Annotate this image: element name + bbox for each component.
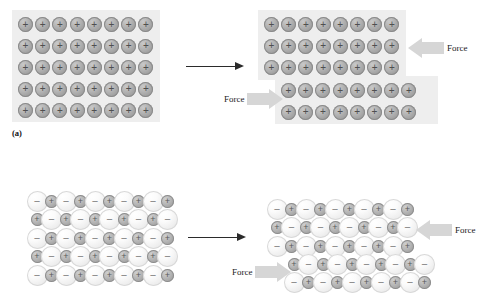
force-arrow-left-icon bbox=[408, 38, 444, 58]
transition-arrow-b bbox=[188, 233, 246, 242]
cation-sphere: + bbox=[104, 103, 119, 118]
plus-icon: + bbox=[161, 195, 174, 208]
plus-icon: + bbox=[367, 17, 382, 32]
plus-icon: + bbox=[333, 105, 348, 120]
plus-icon: + bbox=[401, 203, 414, 216]
arrow-shaft bbox=[188, 237, 237, 238]
lattice-row: ++++++++ bbox=[264, 39, 399, 54]
cation-sphere: + bbox=[35, 39, 50, 54]
cation-sphere: + bbox=[333, 60, 348, 75]
plus-icon: + bbox=[35, 103, 50, 118]
cation-sphere: + bbox=[316, 17, 331, 32]
plus-icon: + bbox=[264, 60, 279, 75]
plus-icon: + bbox=[18, 39, 33, 54]
plus-icon: + bbox=[70, 17, 85, 32]
cation-sphere: + bbox=[70, 17, 85, 32]
lattice-row: ++++++++ bbox=[18, 60, 153, 75]
plus-icon: + bbox=[401, 105, 416, 120]
plus-icon: + bbox=[87, 60, 102, 75]
plus-icon: + bbox=[281, 83, 296, 98]
cation-sphere: + bbox=[70, 82, 85, 97]
force-arrow-a-upper: Force bbox=[408, 38, 468, 58]
arrow-tail bbox=[422, 42, 444, 54]
arrow-head bbox=[235, 62, 244, 70]
plus-icon: + bbox=[401, 240, 414, 253]
cation-sphere: + bbox=[384, 60, 399, 75]
cation-sphere: + bbox=[350, 105, 365, 120]
cation-sphere: + bbox=[316, 60, 331, 75]
cation-sphere: + bbox=[87, 60, 102, 75]
plus-icon: + bbox=[70, 39, 85, 54]
force-arrow-right-icon bbox=[247, 89, 283, 109]
cation-sphere: + bbox=[52, 17, 67, 32]
plus-icon: + bbox=[350, 17, 365, 32]
plus-icon: + bbox=[384, 105, 399, 120]
plus-icon: + bbox=[121, 39, 136, 54]
cation-sphere: + bbox=[104, 39, 119, 54]
force-arrow-a-lower: Force bbox=[224, 89, 283, 109]
plus-icon: + bbox=[316, 39, 331, 54]
cation-sphere: + bbox=[35, 103, 50, 118]
arrow-tip bbox=[416, 220, 430, 240]
cation-sphere: + bbox=[18, 39, 33, 54]
plus-icon: + bbox=[138, 103, 153, 118]
plus-icon: + bbox=[350, 39, 365, 54]
plus-icon: + bbox=[52, 82, 67, 97]
arrow-head bbox=[237, 233, 246, 241]
plus-icon: + bbox=[138, 39, 153, 54]
plus-icon: + bbox=[104, 103, 119, 118]
metallic-lattice-after-upper: ++++++++++++++++++++++++ bbox=[258, 10, 406, 80]
cation-sphere: + bbox=[350, 39, 365, 54]
lattice-row: ++++++++ bbox=[18, 39, 153, 54]
arrow-tip bbox=[269, 89, 283, 109]
plus-icon: + bbox=[384, 17, 399, 32]
ionic-lattice-after-upper: −+−+−+−+−++−+−+−+−+−−+−+−+−+−+ bbox=[266, 198, 416, 256]
lattice-row: ++++++++ bbox=[281, 83, 416, 98]
cation-sphere: + bbox=[138, 17, 153, 32]
metallic-lattice-before: ++++++++++++++++++++++++++++++++++++++++ bbox=[12, 10, 160, 122]
plus-icon: + bbox=[315, 105, 330, 120]
plus-icon: + bbox=[298, 39, 313, 54]
lattice-row: ++++++++ bbox=[18, 17, 153, 32]
cation-sphere: + bbox=[104, 17, 119, 32]
cation-sphere: + bbox=[418, 276, 431, 289]
plus-icon: + bbox=[121, 60, 136, 75]
plus-icon: + bbox=[104, 82, 119, 97]
cation-sphere: + bbox=[104, 60, 119, 75]
cation-sphere: + bbox=[316, 39, 331, 54]
plus-icon: + bbox=[298, 60, 313, 75]
plus-icon: + bbox=[18, 60, 33, 75]
arrow-tail bbox=[255, 266, 277, 278]
lattice-row: ++++++++ bbox=[18, 103, 153, 118]
cation-sphere: + bbox=[52, 82, 67, 97]
plus-icon: + bbox=[281, 17, 296, 32]
plus-icon: + bbox=[367, 83, 382, 98]
cation-sphere: + bbox=[401, 240, 414, 253]
cation-sphere: + bbox=[264, 17, 279, 32]
plus-icon: + bbox=[35, 17, 50, 32]
plus-icon: + bbox=[104, 60, 119, 75]
plus-icon: + bbox=[281, 105, 296, 120]
transition-arrow-a bbox=[186, 62, 244, 71]
cation-sphere: + bbox=[87, 39, 102, 54]
plus-icon: + bbox=[384, 83, 399, 98]
plus-icon: + bbox=[52, 39, 67, 54]
plus-icon: + bbox=[18, 17, 33, 32]
plus-icon: + bbox=[161, 269, 174, 282]
cation-sphere: + bbox=[121, 82, 136, 97]
cation-sphere: + bbox=[264, 60, 279, 75]
plus-icon: + bbox=[138, 17, 153, 32]
plus-icon: + bbox=[35, 82, 50, 97]
plus-icon: + bbox=[18, 103, 33, 118]
cation-sphere: + bbox=[281, 60, 296, 75]
plus-icon: + bbox=[316, 60, 331, 75]
force-arrow-b-lower: Force bbox=[232, 262, 291, 282]
plus-icon: + bbox=[315, 83, 330, 98]
cation-sphere: + bbox=[35, 17, 50, 32]
plus-icon: + bbox=[138, 82, 153, 97]
plus-icon: + bbox=[350, 83, 365, 98]
cation-sphere: + bbox=[87, 82, 102, 97]
arrow-tip bbox=[408, 38, 422, 58]
plus-icon: + bbox=[298, 105, 313, 120]
